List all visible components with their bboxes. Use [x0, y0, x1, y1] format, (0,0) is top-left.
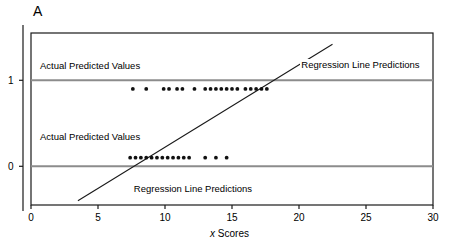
data-point [249, 87, 253, 91]
x-axis-title: x Scores [0, 228, 459, 239]
x-axis-tick-label: 25 [360, 212, 371, 223]
x-axis-tick-label: 5 [95, 212, 101, 223]
data-point [177, 156, 181, 160]
data-point [214, 87, 218, 91]
data-point [155, 156, 159, 160]
data-point [225, 156, 229, 160]
x-axis-tick-label: 10 [159, 212, 170, 223]
data-point [193, 87, 197, 91]
data-point [235, 87, 239, 91]
data-point [128, 156, 132, 160]
data-point [181, 87, 185, 91]
data-point [214, 156, 218, 160]
data-point [175, 87, 179, 91]
data-point [209, 87, 213, 91]
y-axis-tick-label: 1 [8, 75, 14, 86]
data-point [144, 87, 148, 91]
x-axis-tick-label: 0 [28, 212, 34, 223]
actual-predicted-values-top: Actual Predicted Values [39, 60, 141, 71]
data-point [254, 87, 258, 91]
data-point [203, 156, 207, 160]
regression-line-predictions-top: Regression Line Predictions [300, 59, 420, 70]
data-point [260, 87, 264, 91]
y-axis-tick-label: 0 [8, 161, 14, 172]
data-point [244, 87, 248, 91]
x-axis-tick-label: 20 [293, 212, 304, 223]
data-point [265, 87, 269, 91]
x-axis-tick-label: 15 [226, 212, 237, 223]
data-point [182, 156, 186, 160]
x-axis-tick-label: 30 [427, 212, 438, 223]
data-point [219, 87, 223, 91]
data-point [166, 156, 170, 160]
data-point [187, 156, 191, 160]
data-point [150, 156, 154, 160]
data-point [225, 87, 229, 91]
data-point [160, 156, 164, 160]
data-point [134, 156, 138, 160]
data-point [167, 87, 171, 91]
figure-panel-a: A 05101520253001 Actual Predicted Values… [0, 0, 459, 252]
regression-line-predictions-bottom: Regression Line Predictions [133, 183, 253, 194]
data-point [162, 87, 166, 91]
data-point [131, 87, 135, 91]
data-point [230, 87, 234, 91]
data-point [144, 156, 148, 160]
reference-lines [31, 80, 433, 166]
data-points [128, 87, 268, 160]
x-axis-title-rest: Scores [215, 228, 249, 239]
actual-predicted-values-bottom: Actual Predicted Values [39, 131, 141, 142]
data-point [203, 87, 207, 91]
data-point [139, 156, 143, 160]
data-point [171, 156, 175, 160]
